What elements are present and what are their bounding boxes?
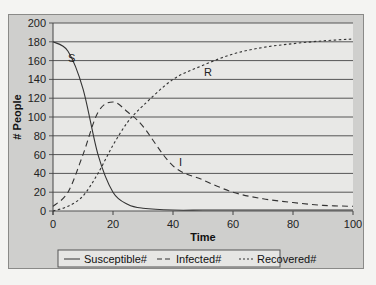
x-tick-label: 40 (167, 218, 179, 230)
sir-line-chart: 020406080100120140160180200 020406080100… (0, 0, 376, 285)
y-tick-label: 140 (28, 73, 46, 85)
y-axis-ticks: 020406080100120140160180200 (28, 17, 46, 217)
y-tick-label: 200 (28, 17, 46, 29)
curve-label-s: S (68, 52, 75, 64)
x-tick-label: 100 (344, 218, 362, 230)
legend-label-susceptible: Susceptible# (84, 253, 148, 265)
y-tick-label: 0 (40, 205, 46, 217)
y-tick-label: 80 (34, 130, 46, 142)
x-axis-label: Time (190, 231, 215, 243)
x-tick-label: 20 (107, 218, 119, 230)
y-tick-label: 40 (34, 167, 46, 179)
y-tick-label: 160 (28, 55, 46, 67)
curve-label-i: I (179, 156, 182, 168)
legend-label-infected: Infected# (176, 253, 222, 265)
y-tick-label: 60 (34, 149, 46, 161)
x-axis-ticks: 020406080100 (50, 211, 362, 230)
y-tick-label: 20 (34, 186, 46, 198)
y-tick-label: 120 (28, 92, 46, 104)
y-tick-label: 180 (28, 36, 46, 48)
x-tick-label: 80 (287, 218, 299, 230)
x-tick-label: 0 (50, 218, 56, 230)
y-tick-label: 100 (28, 111, 46, 123)
x-tick-label: 60 (227, 218, 239, 230)
legend: Susceptible# Infected# Recovered# (58, 250, 317, 267)
curve-label-r: R (204, 66, 212, 78)
y-axis-label: # People (11, 94, 23, 139)
legend-label-recovered: Recovered# (257, 253, 317, 265)
